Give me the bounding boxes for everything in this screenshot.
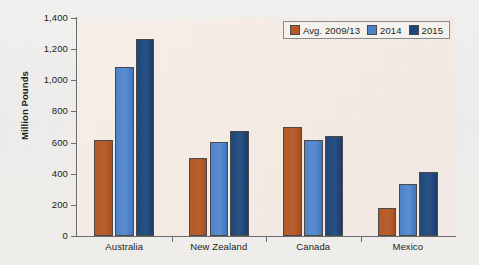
bar-mexico-avg-2009-13 bbox=[378, 208, 397, 236]
bar-australia-avg-2009-13 bbox=[94, 140, 113, 236]
legend-item-2014: 2014 bbox=[367, 25, 402, 36]
y-tick-label-0: 0 bbox=[8, 230, 68, 241]
y-tick-1000 bbox=[71, 80, 76, 81]
y-tick-200 bbox=[71, 205, 76, 206]
legend-swatch-icon-2015 bbox=[409, 25, 419, 35]
category-label-canada: Canada bbox=[266, 241, 361, 252]
bar-new-zealand-2015 bbox=[230, 131, 249, 236]
y-tick-label-1000: 1,000 bbox=[8, 74, 68, 85]
legend-label-2015: 2015 bbox=[422, 25, 444, 36]
y-axis-line bbox=[76, 17, 77, 237]
y-tick-label-1200: 1,200 bbox=[8, 43, 68, 54]
bar-new-zealand-2014 bbox=[210, 142, 229, 236]
y-tick-800 bbox=[71, 111, 76, 112]
category-label-new-zealand: New Zealand bbox=[172, 241, 267, 252]
legend-label-avg-2009-13: Avg. 2009/13 bbox=[303, 25, 360, 36]
bar-mexico-2014 bbox=[399, 184, 418, 236]
bar-australia-2014 bbox=[115, 67, 134, 236]
y-tick-label-200: 200 bbox=[8, 199, 68, 210]
y-tick-label-800: 800 bbox=[8, 105, 68, 116]
legend-swatch-icon-avg-2009-13 bbox=[290, 25, 300, 35]
bar-canada-2014 bbox=[304, 140, 323, 236]
y-tick-1200 bbox=[71, 49, 76, 50]
chart-legend: Avg. 2009/13 2014 2015 bbox=[283, 21, 450, 39]
y-axis-title: Million Pounds bbox=[19, 56, 30, 156]
bar-australia-2015 bbox=[136, 39, 155, 236]
legend-swatch-icon-2014 bbox=[367, 25, 377, 35]
legend-item-avg-2009-13: Avg. 2009/13 bbox=[290, 25, 360, 36]
y-tick-label-600: 600 bbox=[8, 137, 68, 148]
chart-figure: 02004006008001,0001,2001,400 Million Pou… bbox=[0, 0, 479, 265]
category-label-australia: Australia bbox=[77, 241, 172, 252]
y-tick-0 bbox=[71, 236, 76, 237]
bar-mexico-2015 bbox=[419, 172, 438, 236]
y-tick-400 bbox=[71, 174, 76, 175]
y-tick-600 bbox=[71, 143, 76, 144]
legend-item-2015: 2015 bbox=[409, 25, 444, 36]
y-tick-1400 bbox=[71, 18, 76, 19]
bar-new-zealand-avg-2009-13 bbox=[189, 158, 208, 236]
bar-canada-avg-2009-13 bbox=[283, 127, 302, 236]
category-label-mexico: Mexico bbox=[361, 241, 456, 252]
legend-label-2014: 2014 bbox=[380, 25, 402, 36]
y-tick-label-1400: 1,400 bbox=[8, 12, 68, 23]
bar-canada-2015 bbox=[325, 136, 344, 236]
y-tick-label-400: 400 bbox=[8, 168, 68, 179]
